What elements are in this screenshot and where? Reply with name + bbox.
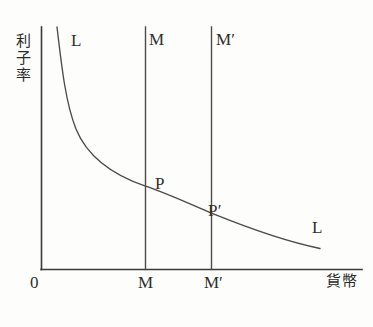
- origin-label: 0: [30, 274, 39, 291]
- y-axis-label: 利 子 率: [14, 33, 32, 83]
- equilibrium-label-p-prime: P′: [208, 202, 222, 219]
- x-axis-tick-label-m-prime: M′: [204, 274, 223, 291]
- curve-label-l-right: L: [312, 219, 323, 236]
- equilibrium-label-p: P: [155, 175, 165, 192]
- y-axis-label-char-1: 利: [14, 33, 32, 50]
- diagram-canvas: [0, 0, 373, 327]
- y-axis-label-char-2: 子: [14, 50, 32, 67]
- y-axis-label-char-3: 率: [14, 67, 32, 84]
- figure-container: 利 子 率 貨幣 L M M′ P P′ L 0 M M′: [0, 0, 373, 327]
- liquidity-preference-curve: [57, 27, 320, 249]
- supply-line-label-m-prime-top: M′: [216, 31, 235, 48]
- supply-line-label-m-top: M: [149, 31, 164, 48]
- x-axis-tick-label-m: M: [138, 274, 153, 291]
- x-axis-label: 貨幣: [326, 274, 358, 289]
- curve-label-l-top: L: [71, 32, 82, 49]
